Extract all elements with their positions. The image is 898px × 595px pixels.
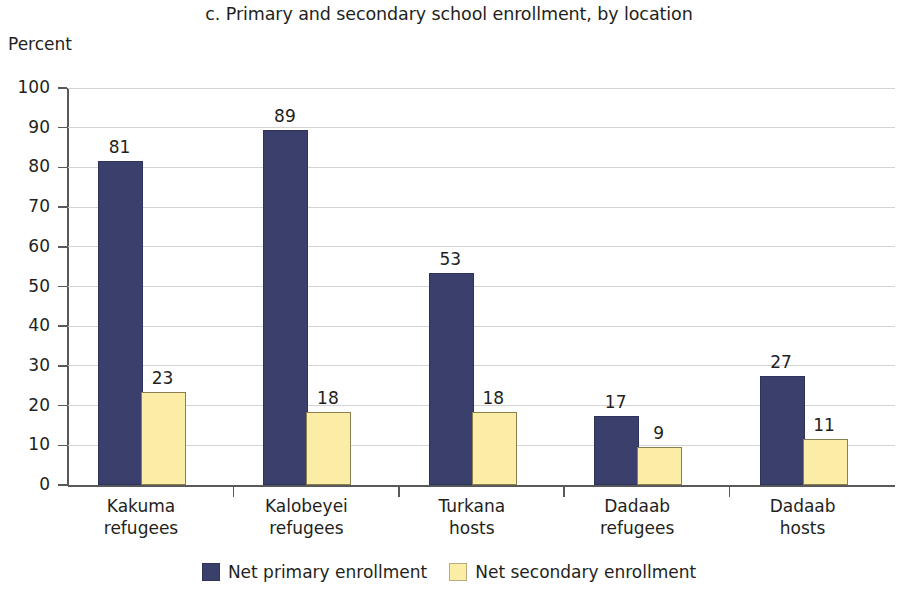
- legend-swatch-primary: [202, 563, 220, 581]
- bar-secondary: [803, 439, 848, 485]
- legend-item: Net primary enrollment: [202, 562, 427, 582]
- y-tick-label: 40: [2, 317, 50, 334]
- bar-secondary: [637, 447, 682, 485]
- y-tick-label: 70: [2, 198, 50, 215]
- bar-primary: [429, 273, 474, 485]
- bar-value-label: 11: [785, 417, 864, 434]
- y-tick-mark: [58, 206, 67, 208]
- gridline: [68, 286, 895, 287]
- legend-label: Net secondary enrollment: [475, 562, 696, 582]
- y-tick-mark: [58, 87, 67, 89]
- y-tick-label: 20: [2, 397, 50, 414]
- y-tick-label: 60: [2, 238, 50, 255]
- y-tick-mark: [58, 246, 67, 248]
- bar-value-label: 9: [619, 425, 698, 442]
- y-tick-label: 80: [2, 158, 50, 175]
- y-tick-mark: [58, 445, 67, 447]
- bar-secondary: [472, 412, 517, 485]
- y-tick-mark: [58, 365, 67, 367]
- y-tick-label: 10: [2, 436, 50, 453]
- gridline: [68, 127, 895, 128]
- y-tick-mark: [58, 405, 67, 407]
- chart-legend: Net primary enrollmentNet secondary enro…: [0, 562, 898, 582]
- legend-label: Net primary enrollment: [228, 562, 427, 582]
- bar-value-label: 27: [742, 354, 821, 371]
- legend-item: Net secondary enrollment: [449, 562, 696, 582]
- bar-value-label: 18: [454, 390, 533, 407]
- bar-primary: [263, 130, 308, 485]
- y-tick-mark: [58, 127, 67, 129]
- y-tick-label: 0: [2, 476, 50, 493]
- x-category-label: Kakuma refugees: [61, 496, 221, 540]
- y-tick-label: 100: [2, 79, 50, 96]
- bar-value-label: 23: [123, 370, 202, 387]
- y-tick-mark: [58, 286, 67, 288]
- x-category-label: Dadaab refugees: [557, 496, 717, 540]
- y-tick-label: 50: [2, 278, 50, 295]
- x-axis-baseline: [68, 485, 895, 487]
- gridline: [68, 88, 895, 89]
- bar-value-label: 89: [245, 108, 324, 125]
- bar-primary: [98, 161, 143, 485]
- y-tick-label: 90: [2, 119, 50, 136]
- bar-value-label: 81: [80, 139, 159, 156]
- bar-value-label: 17: [576, 394, 655, 411]
- bar-secondary: [306, 412, 351, 485]
- bar-value-label: 18: [288, 390, 367, 407]
- x-category-label: Kalobeyei refugees: [226, 496, 386, 540]
- bar-secondary: [141, 392, 186, 485]
- y-tick-mark: [58, 167, 67, 169]
- bar-value-label: 53: [411, 251, 490, 268]
- gridline: [68, 326, 895, 327]
- y-axis-title: Percent: [8, 34, 72, 54]
- gridline: [68, 167, 895, 168]
- x-category-label: Turkana hosts: [392, 496, 552, 540]
- gridline: [68, 207, 895, 208]
- legend-swatch-secondary: [449, 563, 467, 581]
- x-category-label: Dadaab hosts: [723, 496, 883, 540]
- gridline: [68, 246, 895, 247]
- y-tick-mark: [58, 325, 67, 327]
- plot-area: 8123891853181792711: [68, 88, 895, 485]
- y-tick-mark: [58, 484, 67, 486]
- y-tick-label: 30: [2, 357, 50, 374]
- chart-title: c. Primary and secondary school enrollme…: [0, 4, 898, 24]
